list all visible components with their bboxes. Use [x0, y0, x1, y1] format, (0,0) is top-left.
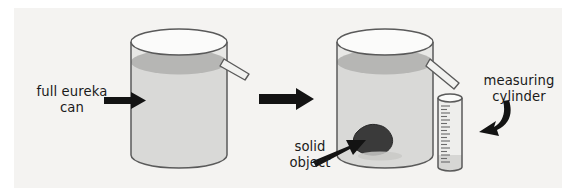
eureka-can-diagram: full eureka can solid object measuring c… [0, 0, 575, 195]
measuring-cylinder [438, 94, 462, 175]
cylinder-rim [438, 94, 462, 102]
water-body-left [131, 62, 227, 168]
label-solid-object: solid object [279, 139, 341, 170]
label-measuring-cylinder: measuring cylinder [471, 73, 567, 104]
can-rim-left [131, 29, 227, 55]
measuring-cylinder-pointer-arrow [479, 100, 511, 136]
object-shadow [358, 152, 402, 161]
eureka-can-before [131, 29, 249, 168]
transition-arrow [259, 88, 314, 110]
can-rim-right [337, 29, 433, 55]
label-full-eureka-can: full eureka can [24, 84, 120, 115]
